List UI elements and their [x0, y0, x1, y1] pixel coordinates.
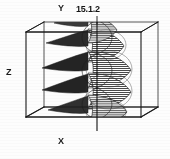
axis-label-z: Z: [6, 68, 12, 77]
axis-label-y: Y: [58, 4, 64, 13]
wave-spike: [54, 12, 88, 26]
figure-container: Y Z X 15.1.2: [0, 0, 170, 159]
wave-spike: [42, 74, 88, 93]
figure-graphic: [0, 0, 170, 159]
wave-spike-group: [42, 12, 88, 113]
wave-spike: [42, 52, 88, 71]
axis-label-x: X: [58, 137, 64, 146]
figure-number-label: 15.1.2: [76, 4, 100, 14]
